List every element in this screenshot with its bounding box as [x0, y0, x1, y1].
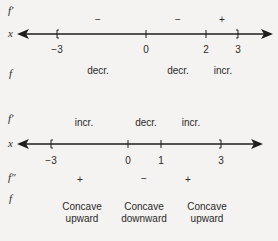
tick-label: −3: [51, 44, 62, 55]
row-label-fprime: f′: [8, 113, 13, 124]
tick-label: 3: [218, 155, 224, 166]
tick-label: 3: [235, 44, 241, 55]
row-label-fprime: f′: [8, 5, 13, 16]
fprime-behavior: incr.: [75, 117, 93, 128]
concavity-line2: downward: [121, 213, 167, 224]
tick-label: 2: [203, 44, 209, 55]
fprime-sign: −: [175, 14, 181, 25]
tick-label: −3: [45, 155, 56, 166]
fdoubleprime-sign: −: [141, 173, 147, 184]
row-label-x: x: [8, 28, 13, 39]
f-behavior: decr.: [87, 65, 109, 76]
tick-label: 1: [158, 155, 164, 166]
concavity-line2: upward: [187, 213, 226, 224]
fdoubleprime-sign: +: [185, 174, 191, 185]
fprime-behavior: decr.: [135, 117, 157, 128]
fprime-behavior: incr.: [182, 117, 200, 128]
f-behavior: decr.: [167, 65, 189, 76]
concavity-label: Concave upward: [62, 201, 101, 224]
row-label-x: x: [8, 138, 13, 149]
tick-label: 0: [125, 155, 131, 166]
fprime-sign: −: [95, 14, 101, 25]
fprime-sign: +: [219, 14, 225, 25]
row-label-f: f: [9, 68, 12, 79]
concavity-line2: upward: [62, 213, 101, 224]
f-behavior: incr.: [214, 65, 232, 76]
concavity-label: Concave downward: [121, 201, 167, 224]
concavity-line1: Concave: [121, 201, 167, 212]
tick-label: 0: [143, 44, 149, 55]
concavity-label: Concave upward: [187, 201, 226, 224]
concavity-line1: Concave: [187, 201, 226, 212]
row-label-f: f: [9, 193, 12, 204]
row-label-fdoubleprime: f″: [8, 172, 16, 183]
concavity-line1: Concave: [62, 201, 101, 212]
fdoubleprime-sign: +: [77, 174, 83, 185]
